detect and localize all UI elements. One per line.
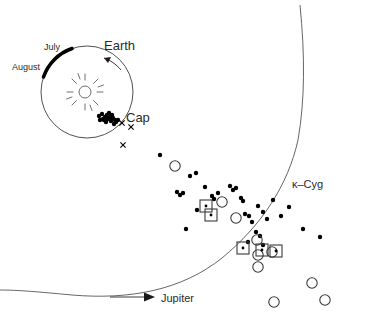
- label-august: August: [12, 62, 41, 72]
- meteor-point: [250, 220, 254, 224]
- meteor-point: [318, 235, 322, 239]
- meteor-point: [184, 227, 188, 231]
- figure-root: Earth July August Cap κ–Cyg Jupiter: [0, 0, 373, 331]
- meteor-point-square-center: [275, 250, 278, 253]
- meteor-point-square-center: [205, 205, 208, 208]
- meteor-point: [228, 184, 232, 188]
- meteor-point: [234, 186, 238, 190]
- meteor-point: [216, 191, 220, 195]
- meteor-point: [279, 214, 283, 218]
- meteor-radiant-diagram: Earth July August Cap κ–Cyg Jupiter: [0, 0, 373, 331]
- meteor-point: [194, 171, 198, 175]
- meteor-point: [265, 217, 269, 221]
- meteor-point: [181, 191, 185, 195]
- meteor-point: [301, 227, 305, 231]
- label-cap: Cap: [126, 110, 150, 125]
- meteor-point: [287, 205, 291, 209]
- label-july: July: [44, 42, 61, 52]
- meteor-point: [195, 208, 199, 212]
- meteor-point: [243, 212, 247, 216]
- meteor-point: [254, 230, 258, 234]
- meteor-point: [158, 153, 162, 157]
- meteor-point: [112, 122, 116, 126]
- meteor-point-square-center: [261, 249, 264, 252]
- meteor-point: [116, 118, 120, 122]
- meteor-point: [241, 199, 245, 203]
- meteor-point: [256, 204, 260, 208]
- label-kappa-cyg: κ–Cyg: [292, 178, 323, 190]
- meteor-point: [247, 214, 251, 218]
- meteor-point: [110, 113, 114, 117]
- meteor-point-square-center: [242, 247, 245, 250]
- meteor-point: [98, 118, 102, 122]
- meteor-point: [188, 174, 192, 178]
- meteor-point: [203, 185, 207, 189]
- meteor-point: [271, 198, 275, 202]
- label-jupiter: Jupiter: [161, 292, 194, 304]
- meteor-point: [261, 210, 265, 214]
- meteor-point-square-center: [210, 214, 213, 217]
- label-earth: Earth: [104, 38, 135, 53]
